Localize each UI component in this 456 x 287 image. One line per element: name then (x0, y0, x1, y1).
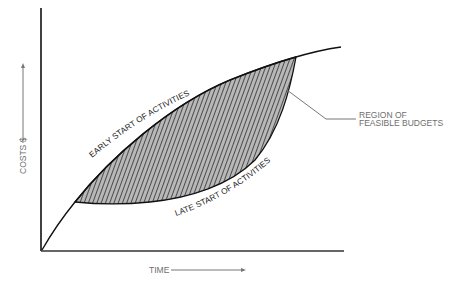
y-axis-label: COSTS $ (18, 137, 28, 174)
up-arrowhead-icon (21, 63, 25, 68)
x-axis-label-group: TIME (149, 265, 246, 275)
y-axis-label-group: COSTS $ (18, 63, 28, 174)
right-arrowhead-icon (241, 268, 246, 272)
feasible-region (75, 57, 296, 204)
cost-time-diagram: COSTS $ TIME EARLY START OF ACTIVITIES L… (0, 0, 456, 287)
region-leader-line (287, 90, 356, 119)
region-label-line2: FEASIBLE BUDGETS (359, 118, 443, 128)
x-axis-label: TIME (149, 265, 170, 275)
